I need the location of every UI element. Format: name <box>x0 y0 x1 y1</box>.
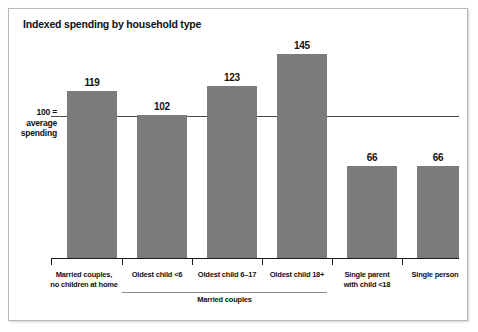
category-label-line: Single person <box>402 270 468 280</box>
bar-value-label: 66 <box>417 152 459 163</box>
category-label-single-person: Single person <box>402 270 468 280</box>
axis-tick <box>192 259 193 265</box>
bar-single-parent-child-under-18 <box>347 166 397 258</box>
category-label-married-no-children: Married couples, no children at home <box>47 270 121 290</box>
bar-married-no-children <box>67 91 117 258</box>
chart-figure: Indexed spending by household type 100 =… <box>8 8 468 321</box>
category-label-oldest-child-6-17: Oldest child 6–17 <box>192 270 262 280</box>
category-label-line: Married couples, <box>47 270 121 280</box>
category-label-single-parent: Single parent with child <18 <box>332 270 402 290</box>
category-label-line: with child <18 <box>332 280 402 290</box>
group-bracket-line <box>122 292 327 293</box>
bar-value-label: 123 <box>207 72 257 83</box>
category-label-oldest-child-18-plus: Oldest child 18+ <box>262 270 332 280</box>
bar-value-label: 119 <box>67 77 117 88</box>
axis-tick <box>262 259 263 265</box>
bar-value-label: 102 <box>137 101 187 112</box>
x-axis-line <box>51 258 459 259</box>
bar-oldest-child-under-6 <box>137 115 187 258</box>
plot-area: 100 = average spending 100 = average spe… <box>9 9 467 320</box>
reference-label-row-1: average <box>15 118 57 129</box>
category-label-line: Oldest child <6 <box>122 270 192 280</box>
axis-tick <box>402 259 403 265</box>
category-label-oldest-child-under-6: Oldest child <6 <box>122 270 192 280</box>
bar-oldest-child-6-17 <box>207 86 257 258</box>
reference-label-row-0: 100 = <box>15 107 57 118</box>
category-label-line: no children at home <box>47 280 121 290</box>
reference-line-label: 100 = average spending 100 = average spe… <box>15 107 57 139</box>
bar-value-label: 145 <box>277 40 327 51</box>
bar-single-person <box>417 166 459 258</box>
category-label-line: Oldest child 18+ <box>262 270 332 280</box>
category-label-line: Oldest child 6–17 <box>192 270 262 280</box>
category-label-line: Single parent <box>332 270 402 280</box>
axis-tick <box>51 259 52 265</box>
axis-tick <box>332 259 333 265</box>
bar-oldest-child-18-plus <box>277 54 327 258</box>
reference-label-row-2: spending <box>15 128 57 139</box>
group-bracket-label: Married couples <box>122 295 327 304</box>
axis-tick <box>122 259 123 265</box>
bar-value-label: 66 <box>347 152 397 163</box>
